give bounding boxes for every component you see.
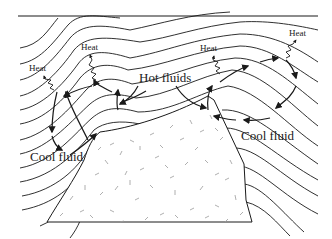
- label-cool-fluid-left: Cool fluid: [30, 150, 83, 163]
- diagram-graphic: [0, 0, 332, 239]
- heat-squiggle-right-center: [213, 56, 220, 74]
- label-cool-fluid-right: Cool fluid: [241, 129, 294, 142]
- label-hot-fluids: Hot fluids: [139, 71, 191, 84]
- hydrothermal-diagram: Heat Heat Hot fluids Heat Heat Cool flui…: [0, 0, 332, 239]
- label-heat-left-center: Heat: [81, 43, 98, 52]
- label-heat-left: Heat: [29, 64, 46, 73]
- label-heat-right: Heat: [289, 29, 306, 38]
- label-heat-right-center: Heat: [200, 44, 217, 53]
- heat-squiggle-right: [286, 40, 296, 58]
